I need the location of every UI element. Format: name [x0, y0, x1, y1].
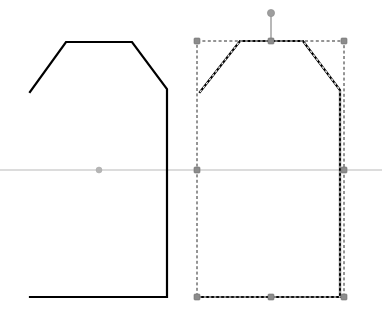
handle-middle-right[interactable] — [341, 167, 347, 173]
canvas-scene — [0, 0, 382, 320]
handle-bottom-left[interactable] — [194, 294, 200, 300]
rotation-handle[interactable] — [267, 9, 274, 16]
handle-top-center[interactable] — [268, 38, 274, 44]
handle-bottom-center[interactable] — [268, 294, 274, 300]
handle-middle-left[interactable] — [194, 167, 200, 173]
handle-top-right[interactable] — [341, 38, 347, 44]
selection-bounding-box — [197, 41, 344, 297]
handle-bottom-right[interactable] — [341, 294, 347, 300]
handle-top-left[interactable] — [194, 38, 200, 44]
resize-handle-group[interactable] — [194, 38, 347, 300]
editor-canvas[interactable] — [0, 0, 382, 320]
selection-path-overlay — [200, 41, 340, 297]
pentagon-shape-selected[interactable] — [200, 41, 340, 297]
shape-center-dot — [96, 167, 102, 173]
